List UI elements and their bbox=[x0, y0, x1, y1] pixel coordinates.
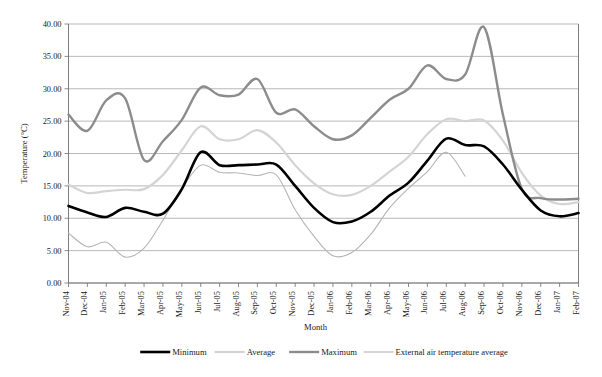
x-tick-label: Dec-05 bbox=[307, 291, 316, 316]
x-tick-label: Feb-07 bbox=[572, 291, 581, 315]
x-axis-tick-labels: Nov-04Dec-04Jan-05Feb-05Mar-05Apr-05May-… bbox=[62, 290, 581, 317]
x-axis-title: Month bbox=[304, 322, 328, 332]
x-tick-label: Jan-06 bbox=[326, 291, 335, 313]
x-tick-marks-group bbox=[69, 283, 579, 287]
series-line-minimum bbox=[69, 138, 579, 223]
x-tick-label: Jun-06 bbox=[420, 291, 429, 314]
x-tick-label: Feb-05 bbox=[118, 291, 127, 315]
x-tick-label: Jan-07 bbox=[553, 291, 562, 313]
x-tick-label: Dec-06 bbox=[534, 291, 543, 316]
x-tick-label: May-06 bbox=[402, 291, 411, 318]
data-series-group bbox=[69, 27, 579, 258]
legend-label-average: Average bbox=[247, 347, 276, 357]
gridlines-group bbox=[69, 24, 579, 283]
y-tick-label: 20.00 bbox=[43, 150, 62, 159]
y-tick-label: 35.00 bbox=[43, 52, 62, 61]
x-tick-label: Dec-04 bbox=[80, 290, 89, 315]
x-tick-label: Jan-05 bbox=[99, 291, 108, 313]
y-tick-label: 25.00 bbox=[43, 117, 62, 126]
temperature-line-chart: 0.005.0010.0015.0020.0025.0030.0035.0040… bbox=[0, 0, 602, 377]
x-tick-label: May-05 bbox=[175, 291, 184, 318]
x-tick-label: Nov-06 bbox=[515, 291, 524, 317]
y-tick-label: 5.00 bbox=[47, 247, 62, 256]
x-tick-label: Oct-06 bbox=[496, 291, 505, 314]
legend-label-minimum: Minimum bbox=[172, 347, 207, 357]
y-axis-title: Temperature (°C) bbox=[19, 123, 29, 183]
x-tick-label: Sep-06 bbox=[477, 291, 486, 315]
y-tick-label: 10.00 bbox=[43, 214, 62, 223]
y-tick-label: 0.00 bbox=[47, 279, 62, 288]
y-tick-label: 40.00 bbox=[43, 20, 62, 29]
legend-label-external-air-temperature-average: External air temperature average bbox=[396, 347, 509, 357]
x-tick-label: Aug-05 bbox=[232, 291, 241, 317]
y-tick-label: 15.00 bbox=[43, 182, 62, 191]
x-tick-label: Apr-05 bbox=[156, 291, 165, 315]
x-tick-label: Mar-05 bbox=[137, 291, 146, 316]
x-tick-label: Jul-05 bbox=[213, 291, 222, 312]
y-axis-tick-labels: 0.005.0010.0015.0020.0025.0030.0035.0040… bbox=[43, 20, 69, 288]
series-line-maximum bbox=[69, 27, 579, 200]
x-tick-label: Oct-05 bbox=[269, 291, 278, 314]
x-tick-label: Feb-06 bbox=[345, 291, 354, 315]
x-tick-label: Nov-05 bbox=[288, 291, 297, 317]
x-tick-label: Aug-06 bbox=[458, 291, 467, 317]
legend-label-maximum: Maximum bbox=[321, 347, 357, 357]
series-line-external-air-temperature-average bbox=[69, 152, 466, 257]
x-tick-label: Sep-05 bbox=[250, 291, 259, 315]
y-tick-label: 30.00 bbox=[43, 85, 62, 94]
x-tick-label: Nov-04 bbox=[62, 290, 71, 316]
chart-canvas: 0.005.0010.0015.0020.0025.0030.0035.0040… bbox=[0, 0, 602, 377]
x-tick-label: Jun-05 bbox=[194, 291, 203, 314]
x-tick-label: Mar-06 bbox=[364, 291, 373, 316]
x-tick-label: Jul-06 bbox=[439, 291, 448, 312]
x-tick-label: Apr-06 bbox=[383, 291, 392, 315]
chart-legend: MinimumAverageMaximumExternal air temper… bbox=[140, 347, 508, 357]
